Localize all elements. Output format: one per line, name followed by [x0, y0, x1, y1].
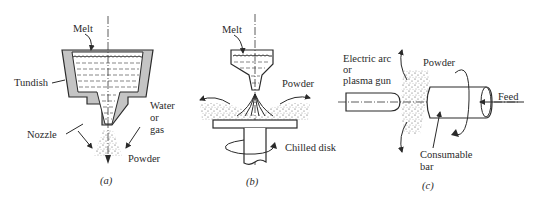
caption-a: (a)	[100, 175, 113, 187]
label-powder: Powder	[128, 153, 161, 164]
tundish-pointer	[52, 80, 65, 83]
powder-production-diagram: Melt Tundish Nozzle Water or gas Powder …	[0, 0, 537, 202]
panel-a-water-gas-atomization: Melt Tundish Nozzle Water or gas Powder …	[14, 16, 175, 187]
label-powder-c: Powder	[423, 57, 456, 68]
label-tundish: Tundish	[14, 77, 49, 88]
label-feed: Feed	[498, 91, 519, 102]
label-water-line3: gas	[150, 124, 164, 135]
caption-c: (c)	[422, 180, 434, 192]
panel-b-centrifugal-atomization: Melt Powder Chilled disk (b)	[200, 14, 337, 188]
label-nozzle: Nozzle	[27, 129, 57, 140]
nozzle-pointer	[66, 124, 83, 134]
label-gun-line2: or	[343, 64, 352, 75]
rotation-arrowhead-icon	[270, 142, 277, 149]
water-jet-right-arrow	[126, 127, 140, 148]
label-chilled-disk: Chilled disk	[285, 142, 337, 153]
panel-c-rotating-electrode: Electric arc or plasma gun Powder Feed C…	[338, 50, 524, 192]
chilled-disk	[213, 120, 297, 128]
label-powder-b: Powder	[282, 78, 315, 89]
label-water-line1: Water	[150, 100, 175, 111]
powder-arrow-right	[280, 97, 310, 104]
flow-arrowhead-icon	[105, 155, 111, 164]
disk-shaft	[244, 128, 266, 164]
powder-arrow-left	[200, 98, 230, 104]
label-consumable-bar-line2: bar	[420, 161, 434, 172]
powder-spray	[94, 130, 122, 156]
label-melt-b: Melt	[222, 24, 242, 35]
label-water-line2: or	[150, 112, 159, 123]
caption-b: (b)	[246, 176, 259, 188]
label-gun-line3: plasma gun	[343, 75, 392, 86]
water-jet-left-arrow	[78, 131, 92, 148]
label-consumable-bar-line1: Consumable	[420, 149, 473, 160]
bar-rotation-arrowhead-icon	[451, 129, 459, 137]
melt-pointer	[85, 34, 91, 50]
label-melt: Melt	[73, 23, 93, 34]
label-gun-line1: Electric arc	[343, 53, 391, 64]
